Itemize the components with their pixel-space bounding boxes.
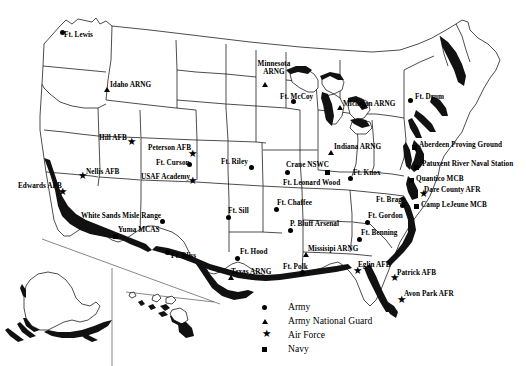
circle-marker-icon [262,305,267,310]
circle-marker-icon [408,98,413,103]
installation-label: USAF Academy [141,173,190,181]
installation-label: Quantico MCB [416,175,464,183]
installation-label: Nellis AFB [86,168,119,176]
installation-marker[interactable] [325,170,330,175]
installation-label: Ft. Polk [283,263,308,271]
installation-label: Ft. Gordon [368,212,403,220]
legend-symbol [262,319,268,324]
circle-marker-icon [365,220,370,225]
square-marker-icon [412,145,417,150]
legend-symbol [262,305,267,310]
triangle-marker-icon [262,319,268,324]
installation-label: Ft. Knox [353,169,381,177]
square-marker-icon [262,347,267,352]
installation-label: Aberdeen Proving Ground [419,141,502,149]
installation-label: Ft. McCoy [280,93,313,101]
installation-label: Ft. Drum [415,93,444,101]
installation-label: Peterson AFB [148,144,191,152]
installation-label: Ft. Benning [361,229,398,237]
installation-label: Patrick AFB [397,269,436,277]
circle-marker-icon [235,256,240,261]
installation-label: Yuma MCAS [118,226,160,234]
installation-marker[interactable] [357,237,362,242]
star-marker-icon: ★ [262,330,271,336]
installation-label: Avon Park AFR [404,290,454,298]
circle-marker-icon [288,228,293,233]
installation-label: Ft. Lewis [64,31,93,39]
square-marker-icon [414,165,419,170]
square-marker-icon [409,178,414,183]
circle-marker-icon [226,215,231,220]
installation-label: Ft. Leonard Wood [283,179,340,187]
installation-marker[interactable] [249,165,254,170]
circle-marker-icon [165,250,170,255]
installation-label: Patuxent River Naval Station [422,160,513,168]
installation-marker[interactable] [113,234,118,239]
installation-label: Dare County AFR [424,186,481,194]
legend-label: Air Force [288,329,325,340]
installation-marker[interactable] [274,207,279,212]
square-marker-icon [113,234,118,239]
installation-label: Ft. Chaffee [277,199,312,207]
installation-label: Ft. Curson [156,159,190,167]
installation-label: Idaho ARNG [110,81,151,89]
installation-label: Crane NSWC [286,161,329,169]
star-marker-icon: ★ [127,138,136,144]
installation-label: Texas ARNG [231,268,271,276]
square-marker-icon [325,170,330,175]
installation-marker[interactable] [288,228,293,233]
installation-marker[interactable] [285,170,290,175]
legend-label: Army National Guard [288,315,372,326]
installation-label: Ft. Bliss [171,252,196,260]
installation-marker[interactable] [226,215,231,220]
installation-marker[interactable] [412,145,417,150]
installation-marker[interactable] [262,82,268,87]
installation-label: Michigan ARNG [343,100,395,108]
installation-marker[interactable] [414,165,419,170]
installation-label: Ft. Bragg [376,196,406,204]
military-installations-map: Ft. LewisIdaho ARNG★Hill AFB★Nellis AFB★… [0,0,526,366]
circle-marker-icon [285,170,290,175]
installation-label: Ft. Riley [221,158,248,166]
square-marker-icon [414,204,419,209]
installation-label: Camp LeJeune MCB [421,201,487,209]
triangle-marker-icon [262,82,268,87]
installation-label: White Sands Misle Range [81,212,161,220]
circle-marker-icon [249,165,254,170]
alaska-inset [5,272,112,342]
installation-label: Missisipi ARNG [308,245,358,253]
installation-marker[interactable] [365,220,370,225]
installation-label: Hill AFB [99,134,127,142]
legend-symbol: ★ [262,333,271,336]
installation-marker[interactable] [165,250,170,255]
installation-marker[interactable] [235,256,240,261]
legend-label: Army [288,301,310,312]
legend-label: Navy [288,343,309,354]
installation-marker[interactable] [408,98,413,103]
installation-label: P. Bluff Arsenal [290,220,339,228]
circle-marker-icon [357,237,362,242]
installation-label: Ft. Sill [228,207,249,215]
installation-label: MinnesotaARNG [251,60,297,77]
installation-marker[interactable] [414,204,419,209]
legend-symbol [262,347,267,352]
installation-label: Eglin AFB [358,261,391,269]
installation-label: Ft. Hood [240,248,268,256]
installation-marker[interactable] [409,178,414,183]
installation-label: Edwards AFB [18,182,62,190]
installation-label: Indiana ARNG [334,143,381,151]
circle-marker-icon [274,207,279,212]
